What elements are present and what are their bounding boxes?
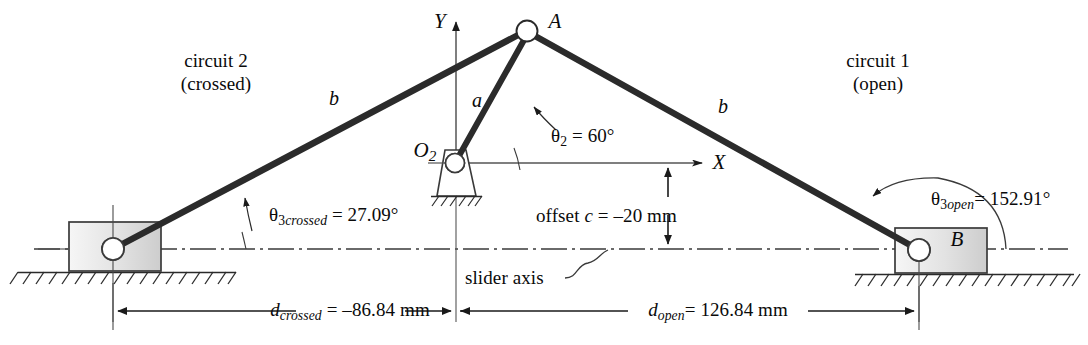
y-axis-label: Y bbox=[434, 10, 446, 34]
d-open-label: dopen= 126.84 mm bbox=[648, 299, 788, 323]
slider-axis-label: slider axis bbox=[465, 267, 544, 288]
d-crossed-subscript: crossed bbox=[280, 308, 322, 323]
theta2-symbol: θ bbox=[551, 125, 560, 146]
pivot-o2-letter: O bbox=[414, 138, 429, 162]
theta3-crossed-symbol: θ bbox=[269, 204, 278, 225]
diagram-canvas bbox=[0, 0, 1088, 345]
circuit-2-line-1: circuit 2 bbox=[181, 49, 252, 72]
offset-prefix: offset bbox=[536, 205, 584, 226]
ground-hatch-right bbox=[855, 274, 1080, 286]
slider-axis-leader bbox=[565, 250, 608, 278]
theta3-crossed-label: θ3crossed = 27.09° bbox=[269, 204, 399, 228]
circuit-2-line-2: (crossed) bbox=[181, 72, 252, 95]
circuit-1-line-2: (open) bbox=[846, 72, 910, 95]
link-a-crank bbox=[455, 40, 524, 163]
theta3-crossed-leader bbox=[242, 198, 252, 249]
link-a-label: a bbox=[472, 89, 482, 111]
pivot-o2-label: O2 bbox=[414, 139, 437, 165]
theta3-crossed-subscript-word: crossed bbox=[285, 213, 327, 228]
d-crossed-variable: d bbox=[270, 299, 280, 320]
theta3-crossed-value: = 27.09° bbox=[327, 204, 398, 225]
x-axis-label: X bbox=[713, 151, 726, 175]
theta3-open-subscript-word: open bbox=[947, 197, 974, 212]
d-open-subscript: open bbox=[658, 308, 685, 323]
link-b-open-label: b bbox=[718, 95, 728, 117]
theta2-value: = 60° bbox=[567, 125, 614, 146]
point-a-label: A bbox=[549, 10, 562, 34]
theta3-open-value: = 152.91° bbox=[974, 188, 1050, 209]
ground-hatch-left bbox=[10, 272, 236, 284]
d-open-variable: d bbox=[648, 299, 658, 320]
circuit-1-line-1: circuit 1 bbox=[846, 49, 910, 72]
theta3-open-label: θ3open= 152.91° bbox=[931, 188, 1050, 212]
pivot-o2-subscript: 2 bbox=[429, 148, 437, 164]
theta2-leader bbox=[514, 107, 556, 170]
offset-value: = –20 mm bbox=[593, 205, 677, 226]
link-b-crossed-label: b bbox=[329, 87, 339, 109]
point-b-label: B bbox=[951, 228, 964, 252]
slider-crank-diagram: circuit 2 (crossed) circuit 1 (open) A B… bbox=[0, 0, 1088, 345]
offset-variable: c bbox=[584, 205, 593, 226]
d-crossed-label: dcrossed = –86.84 mm bbox=[270, 299, 430, 323]
circuit-2-label: circuit 2 (crossed) bbox=[181, 49, 252, 95]
theta2-label: θ2 = 60° bbox=[551, 125, 615, 149]
d-open-value: = 126.84 mm bbox=[685, 299, 788, 320]
offset-label: offset c = –20 mm bbox=[536, 205, 677, 226]
circuit-1-label: circuit 1 (open) bbox=[846, 49, 910, 95]
theta3-open-symbol: θ bbox=[931, 188, 940, 209]
d-crossed-value: = –86.84 mm bbox=[322, 299, 430, 320]
slider-block-left bbox=[38, 205, 161, 322]
